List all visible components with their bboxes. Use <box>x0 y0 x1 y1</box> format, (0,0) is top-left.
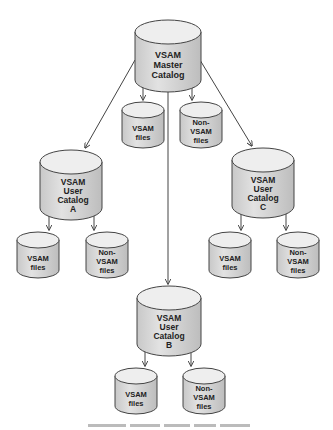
catalog-b-nonvsam-files-cylinder: Non-VSAMfiles <box>183 368 225 414</box>
catalog-a-vsam-files-cylinder: VSAMfiles <box>17 232 59 278</box>
master-catalog-cylinder: VSAMMasterCatalog <box>135 20 201 92</box>
catalog-c-vsam-files-cylinder: VSAMfiles <box>209 232 251 278</box>
vsam-catalog-diagram: VSAMMasterCatalog VSAMfiles Non-VSAMfile… <box>0 0 333 430</box>
svg-text:VSAMMasterCatalog: VSAMMasterCatalog <box>151 50 184 80</box>
master-nonvsam-files-cylinder: Non-VSAMfiles <box>180 102 222 148</box>
catalog-b-vsam-files-cylinder: VSAMfiles <box>115 368 157 414</box>
user-catalog-b-cylinder: VSAMUserCatalogB <box>137 286 201 356</box>
catalog-a-nonvsam-files-cylinder: Non-VSAMfiles <box>86 232 128 278</box>
figure-caption-cropped <box>88 424 278 430</box>
catalog-c-nonvsam-files-cylinder: Non-VSAMfiles <box>277 232 319 278</box>
user-catalog-a-cylinder: VSAMUserCatalogA <box>40 150 102 220</box>
user-catalog-c-cylinder: VSAMUserCatalogC <box>232 148 294 218</box>
master-vsam-files-cylinder: VSAMfiles <box>122 102 164 148</box>
